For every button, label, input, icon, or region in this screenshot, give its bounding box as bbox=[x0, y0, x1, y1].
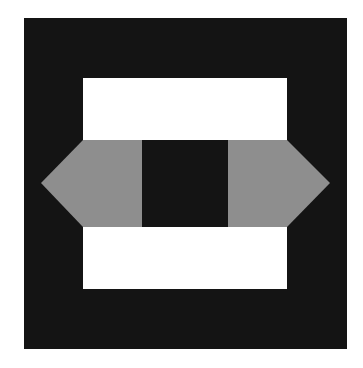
bottom-white-panel bbox=[83, 227, 287, 289]
geometric-figure bbox=[0, 0, 363, 368]
top-white-panel bbox=[83, 78, 287, 140]
center-black-square bbox=[142, 140, 228, 227]
diagram-canvas bbox=[0, 0, 363, 368]
